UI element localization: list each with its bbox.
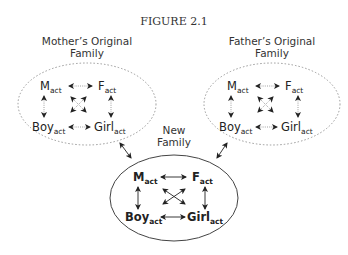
father-girl-node: Girlact [281, 120, 313, 136]
father-family-label-line1: Father’s Original [229, 35, 315, 47]
new-family-label-line2: Family [157, 136, 191, 148]
new-family-ellipse [110, 155, 238, 241]
father-f-node: Fact [285, 79, 303, 95]
father-family-label-line2: Family [255, 47, 289, 59]
father-family-group: Father’s Original Family Mact Fact Boyac… [204, 35, 340, 145]
mother-family-label-line2: Family [70, 47, 104, 59]
mother-family-group: Mother’s Original Family Mact Fact Boyac… [18, 35, 156, 145]
mother-m-node: Mact [40, 79, 62, 95]
new-family-label-line1: New [163, 124, 186, 136]
father-boy-node: Boyact [219, 120, 252, 136]
father-to-new-arrow [217, 143, 227, 158]
mother-to-new-arrow [120, 143, 131, 158]
mother-f-node: Fact [98, 79, 116, 95]
mother-family-label-line1: Mother’s Original [42, 35, 132, 47]
mother-girl-node: Girlact [94, 120, 126, 136]
new-boy-node: Boyact [125, 210, 163, 226]
new-girl-node: Girlact [187, 210, 224, 226]
new-family-group: New Family Mact Fact Boyact Girlact [110, 124, 238, 241]
figure-title: FIGURE 2.1 [140, 15, 207, 28]
father-m-node: Mact [227, 79, 249, 95]
figure-diagram: FIGURE 2.1 Mother’s Original Family Mact… [0, 0, 348, 255]
mother-boy-node: Boyact [32, 120, 65, 136]
new-f-node: Fact [192, 170, 213, 186]
new-m-node: Mact [133, 170, 158, 186]
